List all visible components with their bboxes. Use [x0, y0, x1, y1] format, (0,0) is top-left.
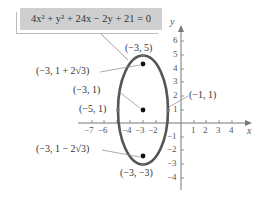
bottom-vertex-label: (−3, −3)	[120, 167, 153, 178]
upper-focus-point	[141, 62, 146, 67]
x-tick-label: 3	[216, 125, 221, 135]
x-tick-label: 1	[191, 125, 196, 135]
x-tick-label: −3	[135, 125, 145, 135]
top-vertex-label: (−3, 5)	[125, 42, 152, 53]
y-axis-arrow-icon	[178, 25, 184, 32]
top-vertex-point	[141, 54, 145, 58]
equation-box: 4x² + y² + 24x − 2y + 21 = 0	[20, 8, 162, 30]
equation-text: 4x² + y² + 24x − 2y + 21 = 0	[31, 13, 151, 24]
x-tick-label: 2	[203, 125, 208, 135]
right-covertex-point	[166, 108, 170, 112]
left-covertex-point	[116, 108, 120, 112]
left-covertex-label: (−5, 1)	[79, 103, 106, 114]
x-axis-label: x	[247, 125, 251, 136]
lower-focus-point	[141, 154, 146, 159]
y-tick-label: 6	[173, 35, 178, 45]
y-tick-label: 4	[173, 63, 178, 73]
center-point	[141, 108, 146, 113]
right-covertex-label: (−1, 1)	[189, 89, 216, 100]
x-tick-label: −7	[84, 125, 94, 135]
y-tick-label: 2	[173, 90, 178, 100]
y-tick-label: 3	[173, 76, 178, 86]
upper-focus-label: (−3, 1 + 2√3)	[36, 65, 89, 76]
x-tick-label: −2	[148, 125, 158, 135]
y-tick-label: −4	[167, 172, 177, 182]
y-tick-label: 1	[173, 104, 178, 114]
x-tick-label: −4	[122, 125, 132, 135]
x-tick-label: −6	[98, 125, 108, 135]
x-tick-label: 4	[229, 125, 234, 135]
lower-focus-label: (−3, 1 − 2√3)	[36, 143, 89, 154]
y-tick-label: −3	[167, 158, 177, 168]
equation-pointer-line	[100, 33, 128, 60]
y-tick-label: −1	[167, 131, 177, 141]
y-axis-label: y	[170, 16, 174, 27]
ellipse-figure: 4x² + y² + 24x − 2y + 21 = 0 y x −7 −6 −…	[0, 0, 266, 203]
bottom-vertex-point	[141, 163, 145, 167]
center-label: (−3, 1)	[73, 84, 100, 95]
y-tick-label: 5	[173, 49, 178, 59]
y-tick-label: −2	[167, 144, 177, 154]
